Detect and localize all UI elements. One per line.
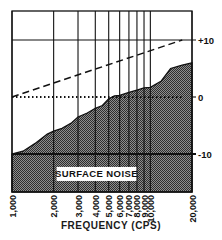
y-tick-label: 0 bbox=[198, 92, 203, 103]
x-axis-label: FREQUENCY (CPS) bbox=[0, 220, 222, 231]
x-tick-label: 20,000 bbox=[188, 195, 198, 223]
frequency-response-chart: SURFACE NOISE +100-10 1,0002,0003,0004,0… bbox=[0, 0, 222, 240]
y-axis-ticks: +100-10 bbox=[198, 35, 214, 160]
x-tick-label: 4,000 bbox=[91, 195, 101, 218]
y-tick-label: +10 bbox=[198, 35, 214, 46]
x-tick-label: 1,000 bbox=[8, 195, 18, 218]
x-tick-label: 5,000 bbox=[104, 195, 114, 218]
x-tick-label: 3,000 bbox=[74, 195, 84, 218]
annotations: SURFACE NOISE bbox=[55, 167, 138, 181]
surface-noise-label: SURFACE NOISE bbox=[55, 168, 138, 179]
x-axis-ticks: 1,0002,0003,0004,0005,0006,0007,0008,000… bbox=[8, 195, 198, 223]
y-tick-label: -10 bbox=[198, 149, 212, 160]
x-tick-label: 10,000 bbox=[146, 195, 156, 223]
x-tick-label: 2,000 bbox=[49, 195, 59, 218]
